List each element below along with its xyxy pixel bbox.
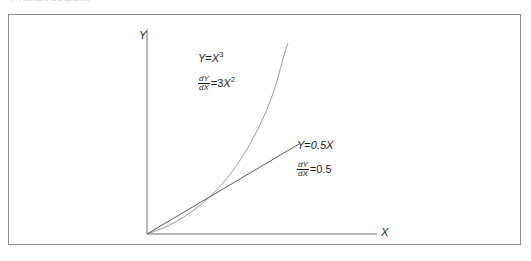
- linear-derivative-denominator: dX: [297, 169, 309, 178]
- annotation-cubic-function: Y=X3: [198, 50, 223, 64]
- annotation-cubic-derivative: dY dX =3X2: [198, 75, 235, 93]
- annotation-linear-function: Y=0.5X: [297, 139, 333, 151]
- cubic-rhs-exponent: 3: [219, 50, 223, 59]
- curve-cubic: [147, 43, 288, 234]
- linear-derivative-rhs: 0.5: [316, 163, 331, 175]
- plot-canvas: [9, 15, 520, 244]
- y-axis-label: Y: [139, 29, 146, 41]
- page-header-strip: 4. A variable is a quantity: [0, 0, 531, 11]
- figure-panel: Y X Y=X3 dY dX =3X2 Y=0.5X dY dX =0.5: [8, 14, 521, 245]
- linear-derivative-numerator: dY: [297, 161, 309, 169]
- cubic-derivative-exponent: 2: [231, 75, 235, 84]
- x-axis-label: X: [381, 226, 388, 238]
- figure-page: 4. A variable is a quantity Y X Y=X3 dY …: [0, 0, 531, 261]
- cubic-derivative-fraction: dY dX: [198, 75, 210, 93]
- linear-rhs: 0.5X: [311, 139, 334, 151]
- cubic-derivative-base: X: [223, 77, 230, 89]
- linear-derivative-fraction: dY dX: [297, 161, 309, 179]
- header-text-fragment: 4. A variable is a quantity: [8, 0, 91, 2]
- annotation-linear-derivative: dY dX =0.5: [297, 161, 332, 179]
- curve-linear: [147, 144, 299, 234]
- cubic-derivative-denominator: dX: [198, 83, 210, 92]
- cubic-derivative-numerator: dY: [198, 75, 210, 83]
